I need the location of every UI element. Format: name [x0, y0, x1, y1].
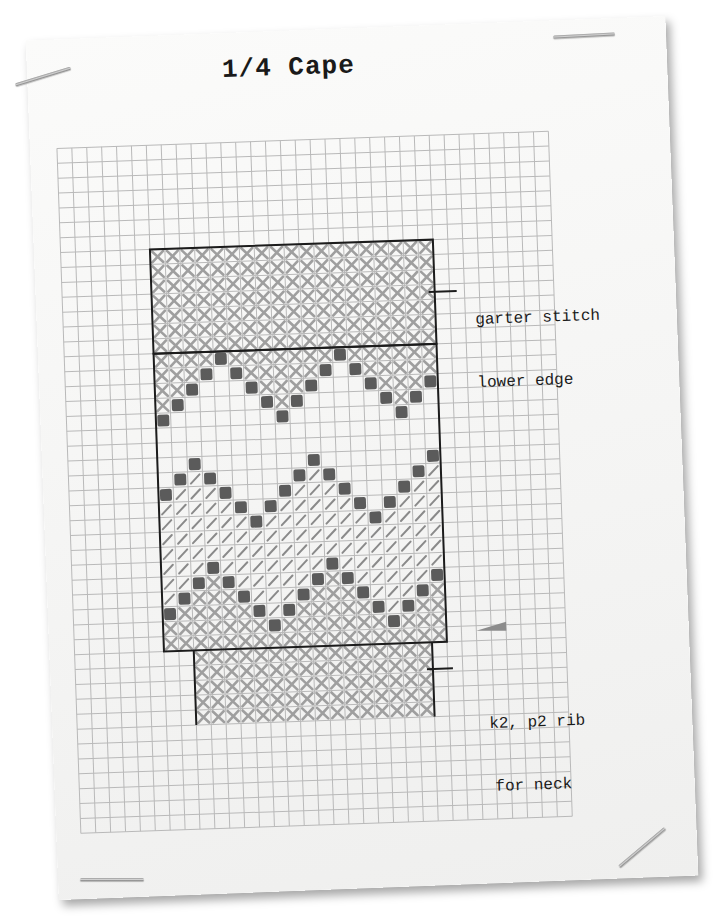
- slash-stitch-cell: [327, 529, 336, 538]
- garter-stitch-cell: [410, 376, 421, 387]
- slash-stitch-cell: [282, 516, 291, 525]
- garter-stitch-cell: [405, 242, 416, 253]
- slash-stitch-cell: [206, 489, 215, 498]
- slash-stitch-cell: [372, 558, 381, 567]
- contrast-stitch-dot: [291, 395, 303, 407]
- rib-stitch-cell: [404, 645, 415, 656]
- garter-stitch-cell: [259, 322, 270, 333]
- garter-stitch-cell: [171, 370, 182, 381]
- garter-stitch-cell: [394, 362, 405, 373]
- slash-stitch-cell: [357, 543, 366, 552]
- slash-stitch-cell: [430, 496, 439, 505]
- annotation-garter-line1: garter stitch: [475, 306, 600, 331]
- garter-stitch-cell: [364, 348, 375, 359]
- garter-stitch-cell: [362, 274, 373, 285]
- contrast-stitch-dot: [326, 558, 338, 570]
- slash-stitch-cell: [254, 577, 263, 586]
- rib-stitch-cell: [256, 665, 267, 676]
- slash-stitch-cell: [295, 486, 304, 495]
- slash-stitch-cell: [283, 546, 292, 555]
- garter-stitch-cell: [186, 369, 197, 380]
- garter-stitch-cell: [376, 258, 387, 269]
- slash-stitch-cell: [179, 564, 188, 573]
- garter-stitch-cell: [227, 263, 238, 274]
- slash-stitch-cell: [403, 586, 412, 595]
- slash-stitch-cell: [267, 531, 276, 540]
- slash-stitch-cell: [165, 595, 174, 604]
- garter-stitch-cell: [344, 632, 355, 643]
- garter-stitch-cell: [333, 304, 344, 315]
- rib-stitch-cell: [271, 679, 282, 690]
- annotation-rib-line1: k2, p2 rib: [489, 711, 586, 735]
- slash-stitch-cell: [284, 576, 293, 585]
- slash-stitch-cell: [193, 549, 202, 558]
- garter-stitch-cell: [170, 340, 181, 351]
- rib-stitch-cell: [390, 675, 401, 686]
- garter-stitch-cell: [406, 257, 417, 268]
- garter-stitch-cell: [379, 347, 390, 358]
- rib-stitch-cell: [211, 666, 222, 677]
- slash-stitch-cell: [311, 500, 320, 509]
- garter-stitch-cell: [240, 636, 251, 647]
- slash-stitch-cell: [208, 548, 217, 557]
- rib-stitch-cell: [315, 648, 326, 659]
- contrast-stitch-dot: [269, 619, 281, 631]
- rib-stitch-cell: [360, 661, 371, 672]
- garter-stitch-cell: [298, 604, 309, 615]
- slash-stitch-cell: [432, 555, 441, 564]
- garter-stitch-cell: [272, 262, 283, 273]
- rib-stitch-cell: [362, 706, 373, 717]
- rib-stitch-cell: [376, 676, 387, 687]
- garter-stitch-cell: [391, 273, 402, 284]
- garter-stitch-cell: [209, 592, 220, 603]
- garter-stitch-cell: [318, 305, 329, 316]
- garter-stitch-cell: [288, 306, 299, 317]
- rib-stitch-cell: [272, 709, 283, 720]
- rib-stitch-cell: [345, 662, 356, 673]
- garter-stitch-cell: [305, 350, 316, 361]
- slash-stitch-cell: [269, 576, 278, 585]
- slash-stitch-cell: [237, 518, 246, 527]
- garter-stitch-cell: [363, 303, 374, 314]
- slash-stitch-cell: [429, 466, 438, 475]
- rib-stitch-cell: [226, 651, 237, 662]
- slash-stitch-cell: [327, 544, 336, 553]
- slash-stitch-cell: [342, 544, 351, 553]
- slash-stitch-cell: [356, 528, 365, 537]
- rib-stitch-cell: [242, 695, 253, 706]
- slash-stitch-cell: [311, 515, 320, 524]
- rib-stitch-cell: [405, 675, 416, 686]
- garter-stitch-cell: [210, 622, 221, 633]
- garter-stitch-cell: [407, 302, 418, 313]
- rib-stitch-cell: [256, 680, 267, 691]
- garter-stitch-cell: [393, 332, 404, 343]
- garter-stitch-cell: [168, 280, 179, 291]
- rib-stitch-cell: [346, 677, 357, 688]
- contrast-stitch-dot: [402, 600, 414, 612]
- slash-stitch-cell: [284, 590, 293, 599]
- garter-stitch-cell: [245, 352, 256, 363]
- garter-stitch-cell: [395, 392, 406, 403]
- garter-stitch-cell: [346, 244, 357, 255]
- garter-stitch-cell: [358, 602, 369, 613]
- garter-stitch-cell: [286, 246, 297, 257]
- slash-stitch-cell: [283, 561, 292, 570]
- garter-stitch-cell: [244, 337, 255, 348]
- rib-stitch-cell: [242, 680, 253, 691]
- garter-stitch-cell: [169, 310, 180, 321]
- garter-stitch-cell: [393, 317, 404, 328]
- garter-stitch-cell: [198, 279, 209, 290]
- rib-stitch-cell: [331, 677, 342, 688]
- rib-stitch-cell: [389, 645, 400, 656]
- garter-stitch-cell: [244, 322, 255, 333]
- garter-stitch-cell: [198, 294, 209, 305]
- slash-stitch-cell: [373, 587, 382, 596]
- slash-stitch-cell: [192, 504, 201, 513]
- garter-stitch-cell: [376, 273, 387, 284]
- contrast-stitch-dot: [207, 562, 219, 574]
- garter-stitch-cell: [318, 320, 329, 331]
- slash-stitch-cell: [402, 542, 411, 551]
- slash-stitch-cell: [164, 565, 173, 574]
- garter-stitch-cell: [197, 249, 208, 260]
- slash-stitch-cell: [268, 561, 277, 570]
